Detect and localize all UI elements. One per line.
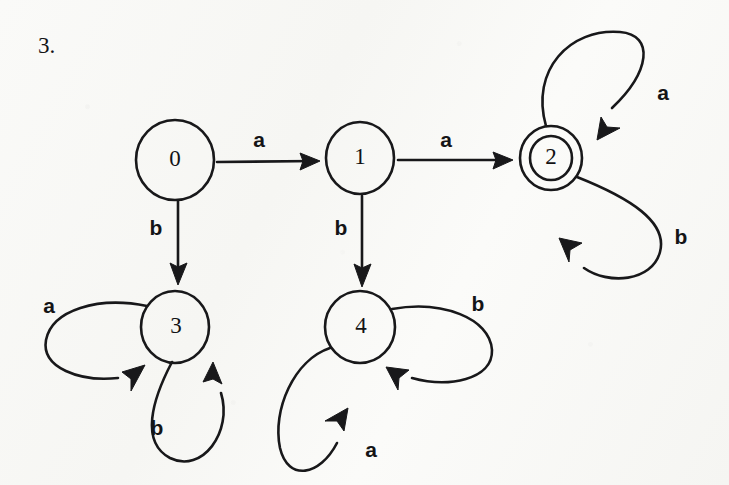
self-loop-4-a: a	[278, 348, 377, 471]
state-node-4[interactable]: 4	[325, 291, 395, 363]
self-loop-2-b: b	[559, 177, 687, 278]
self-loop-4-b: b	[386, 292, 492, 390]
self-loop-3-b-arrowhead	[203, 362, 222, 384]
self-loop-4-b-arrowhead	[386, 367, 409, 390]
self-loop-2-a-label: a	[657, 81, 669, 104]
transition-0-to-1-arrowhead	[300, 153, 320, 170]
question-number: 3.	[38, 33, 55, 58]
state-2-label: 2	[545, 144, 557, 169]
self-loop-3-b: b	[151, 362, 224, 461]
transition-0-to-1-line	[217, 161, 316, 162]
transition-1-to-2-label: a	[440, 128, 452, 151]
self-loop-2-b-arrowhead	[559, 238, 582, 262]
self-loop-2-b-label: b	[675, 225, 688, 248]
transition-1-to-4-label: b	[335, 216, 348, 239]
worksheet-page: 3. 0 1 2 3 4	[0, 0, 729, 485]
self-loop-3-a-arrowhead	[122, 365, 145, 391]
self-loop-3-a-path	[46, 303, 147, 379]
state-node-2[interactable]: 2	[520, 126, 582, 190]
transition-1-to-4: b	[335, 196, 371, 287]
state-node-0[interactable]: 0	[136, 120, 214, 200]
state-3-label: 3	[170, 313, 182, 338]
transition-0-to-1: a	[217, 128, 320, 170]
fsm-diagram: 3. 0 1 2 3 4	[0, 0, 729, 485]
state-4-label: 4	[355, 313, 367, 338]
self-loop-2-b-path	[577, 177, 661, 278]
self-loop-2-a-arrowhead	[597, 117, 620, 140]
self-loop-3-b-label: b	[151, 416, 164, 439]
state-node-3[interactable]: 3	[141, 291, 209, 363]
self-loop-3-a: a	[43, 294, 147, 391]
transition-0-to-3-arrowhead	[170, 263, 187, 285]
self-loop-4-b-label: b	[472, 292, 485, 315]
transition-1-to-4-arrowhead	[354, 264, 371, 287]
state-0-label: 0	[169, 146, 181, 171]
state-1-label: 1	[354, 144, 366, 169]
state-node-1[interactable]: 1	[326, 122, 394, 194]
self-loop-3-a-label: a	[43, 294, 55, 317]
transition-1-to-2: a	[398, 128, 513, 169]
self-loop-4-a-arrowhead	[325, 408, 348, 431]
self-loop-4-a-path	[278, 348, 337, 471]
self-loop-2-a-path	[542, 32, 643, 126]
transition-0-to-1-label: a	[253, 128, 265, 151]
transition-0-to-3: b	[150, 201, 187, 285]
self-loop-2-a: a	[542, 32, 669, 140]
transition-1-to-2-arrowhead	[493, 152, 513, 169]
self-loop-4-a-label: a	[365, 438, 377, 461]
transition-0-to-3-label: b	[150, 216, 163, 239]
